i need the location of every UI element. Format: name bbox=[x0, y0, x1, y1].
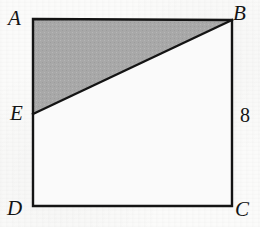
vertex-label-a: A bbox=[8, 8, 21, 29]
vertex-label-e: E bbox=[10, 103, 23, 124]
vertex-label-c: C bbox=[235, 199, 249, 220]
geometry-figure: A B E D C 8 bbox=[0, 0, 260, 227]
figure-canvas bbox=[0, 0, 260, 227]
vertex-label-b: B bbox=[233, 3, 246, 24]
vertex-label-d: D bbox=[7, 198, 22, 219]
side-length-label-bc: 8 bbox=[240, 105, 250, 125]
